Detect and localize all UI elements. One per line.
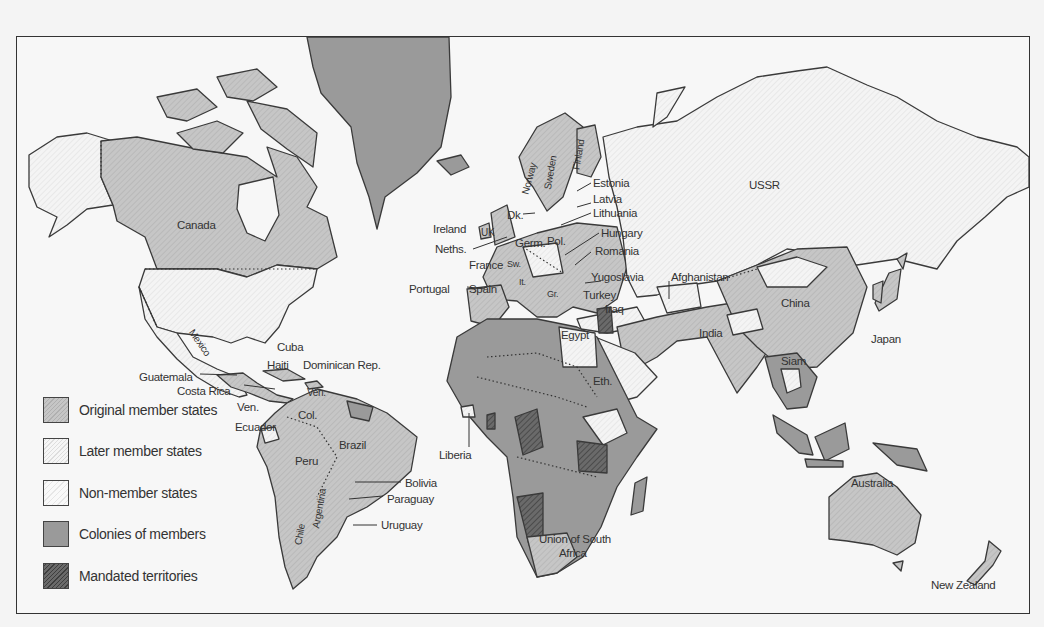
madagascar	[631, 477, 647, 515]
label-ussr: USSR	[749, 179, 780, 191]
tasmania	[893, 561, 903, 571]
mandate-togo	[487, 413, 495, 429]
mandate-swatch-icon	[43, 563, 69, 589]
liberia	[461, 405, 475, 417]
non-member-swatch-icon	[43, 480, 69, 506]
label-it: It.	[519, 277, 526, 287]
legend-label: Colonies of members	[79, 526, 206, 542]
label-pol: Pol.	[547, 235, 566, 247]
label-afghanistan: Afghanistan	[671, 271, 728, 283]
legend-label: Later member states	[79, 443, 202, 459]
borneo	[815, 423, 849, 461]
label-uruguay: Uruguay	[381, 519, 422, 531]
legend-item-later: Later member states	[43, 431, 217, 473]
label-sw: Sw.	[507, 259, 521, 269]
label-dominican-rep: Dominican Rep.	[303, 359, 381, 371]
label-canada: Canada	[177, 219, 215, 231]
label-haiti: Haiti	[267, 359, 289, 371]
legend-label: Non-member states	[79, 485, 197, 501]
label-germ: Germ.	[515, 237, 545, 249]
label-iraq: Iraq	[605, 303, 624, 315]
label-neths: Neths.	[435, 243, 466, 255]
label-romania: Romania	[595, 245, 639, 257]
legend-item-non-member: Non-member states	[43, 472, 217, 514]
label-spain: Spain	[469, 283, 497, 295]
label-dk: Dk.	[507, 209, 523, 221]
java	[805, 459, 843, 467]
label-australia: Australia	[851, 477, 893, 489]
label-china: China	[781, 297, 810, 309]
label-portugal: Portugal	[409, 283, 449, 295]
label-cuba: Cuba	[277, 341, 303, 353]
label-japan: Japan	[871, 333, 901, 345]
label-france: France	[469, 259, 503, 271]
new-guinea	[873, 443, 927, 471]
label-hungary: Hungary	[601, 227, 642, 239]
label-estonia: Estonia	[593, 177, 629, 189]
label-bolivia: Bolivia	[405, 477, 437, 489]
label-uk: UK	[481, 227, 494, 238]
map-frame: Canada Mexico Cuba Haiti Dominican Rep. …	[16, 36, 1030, 614]
label-brazil: Brazil	[339, 439, 366, 451]
colony-swatch-icon	[43, 521, 69, 547]
later-swatch-icon	[43, 438, 69, 464]
greenland	[307, 37, 451, 229]
legend-label: Original member states	[79, 402, 217, 418]
label-paraguay: Paraguay	[387, 493, 434, 505]
legend-item-original: Original member states	[43, 389, 217, 431]
south-america	[257, 389, 417, 589]
label-peru: Peru	[295, 455, 318, 467]
label-ven-left: Ven.	[237, 401, 259, 413]
label-eth: Eth.	[593, 375, 612, 387]
label-india: India	[699, 327, 722, 339]
iceland	[437, 155, 469, 175]
legend-label: Mandated territories	[79, 568, 198, 584]
label-siam: Siam	[781, 355, 806, 367]
map-legend: Original member states Later member stat…	[43, 389, 217, 597]
label-ven-top: Ven.	[307, 387, 326, 398]
legend-item-colony: Colonies of members	[43, 514, 217, 556]
legend-item-mandate: Mandated territories	[43, 555, 217, 597]
label-yugoslavia: Yugoslavia	[591, 271, 644, 283]
label-ireland: Ireland	[433, 223, 466, 235]
label-union-south-africa-1: Union of South	[539, 533, 611, 545]
korea	[873, 281, 883, 303]
label-ecuador: Ecuador	[235, 421, 276, 433]
label-new-zealand: New Zealand	[931, 579, 995, 591]
mandate-tanganyika	[577, 441, 607, 473]
label-egypt: Egypt	[561, 329, 589, 341]
label-guatemala: Guatemala	[139, 371, 193, 383]
label-col: Col.	[298, 409, 317, 421]
label-latvia: Latvia	[593, 193, 622, 205]
original-swatch-icon	[43, 397, 69, 423]
label-gr: Gr.	[547, 289, 558, 299]
label-turkey: Turkey	[583, 289, 616, 301]
label-liberia: Liberia	[439, 449, 471, 461]
sumatra	[773, 415, 813, 455]
label-union-south-africa-2: Africa	[559, 547, 587, 559]
afghanistan	[657, 283, 701, 313]
label-lithuania: Lithuania	[593, 207, 637, 219]
